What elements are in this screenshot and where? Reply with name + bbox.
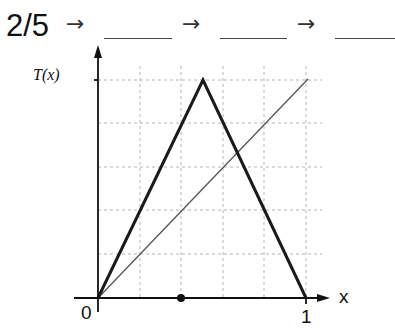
x-axis-label: x: [339, 286, 349, 308]
x-end-label: 1: [301, 306, 312, 328]
y-axis-arrow-icon: [94, 45, 102, 58]
start-point-marker[interactable]: [177, 294, 185, 302]
x-axis-arrow-icon: [317, 294, 330, 302]
diagonal-line: [98, 79, 308, 298]
y-axis-label: T(x): [33, 66, 60, 84]
origin-label: 0: [81, 302, 92, 324]
